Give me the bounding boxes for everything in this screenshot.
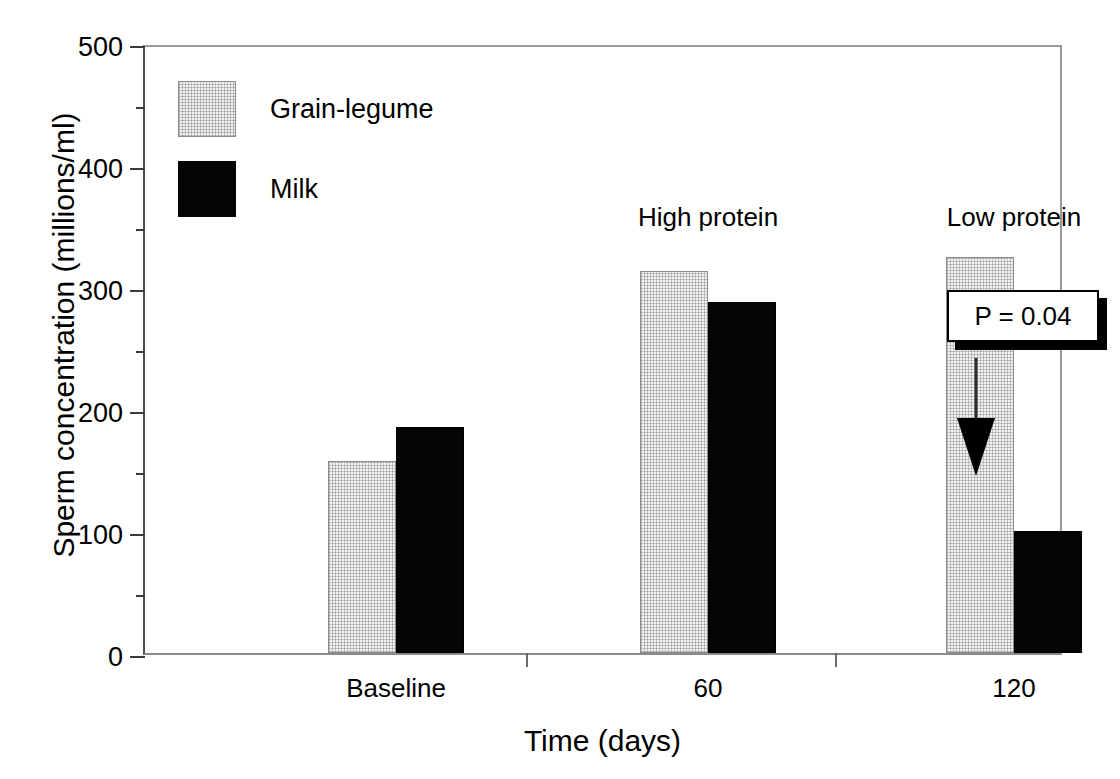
x-axis-title: Time (days)	[143, 724, 1062, 758]
x-tick-label: 120	[992, 673, 1035, 704]
legend-swatch-grain-legume	[178, 81, 236, 137]
y-tick-label: 400	[78, 154, 123, 185]
bar-milk-120	[1014, 531, 1082, 653]
p-value-callout: P = 0.04	[947, 290, 1099, 342]
bar-milk-baseline	[396, 427, 464, 653]
y-tick-major	[130, 46, 145, 48]
legend-item-milk: Milk	[178, 160, 434, 218]
y-tick-major	[130, 168, 145, 170]
y-axis-title: Sperm concentration (millions/ml)	[47, 25, 81, 645]
bar-grain-legume-60	[640, 271, 708, 653]
y-tick-major	[130, 656, 145, 658]
bar-grain-legume-baseline	[328, 461, 396, 653]
y-tick-minor	[136, 107, 145, 109]
legend-swatch-milk	[178, 161, 236, 217]
y-tick-label: 100	[78, 520, 123, 551]
y-tick-major	[130, 534, 145, 536]
y-tick-label: 0	[108, 642, 123, 673]
legend-label-milk: Milk	[270, 174, 318, 205]
y-tick-minor	[136, 351, 145, 353]
y-tick-label: 300	[78, 276, 123, 307]
y-tick-minor	[136, 229, 145, 231]
y-tick-label: 500	[78, 32, 123, 63]
legend-label-grain-legume: Grain-legume	[270, 94, 434, 125]
decrease-arrow-icon	[953, 358, 999, 478]
y-tick-label: 200	[78, 398, 123, 429]
annotation-high-protein: High protein	[638, 202, 778, 233]
x-tick-label: Baseline	[346, 673, 446, 704]
legend-item-grain-legume: Grain-legume	[178, 80, 434, 138]
y-tick-minor	[136, 473, 145, 475]
x-tick-mark	[835, 653, 837, 667]
bar-milk-60	[708, 302, 776, 653]
x-tick-mark	[526, 653, 528, 667]
bar-chart-figure: Sperm concentration (millions/ml) Time (…	[0, 0, 1120, 779]
y-tick-major	[130, 412, 145, 414]
x-tick-label: 60	[694, 673, 723, 704]
chart-legend: Grain-legume Milk	[178, 80, 434, 240]
y-tick-minor	[136, 595, 145, 597]
y-tick-major	[130, 290, 145, 292]
annotation-low-protein: Low protein	[947, 202, 1081, 233]
